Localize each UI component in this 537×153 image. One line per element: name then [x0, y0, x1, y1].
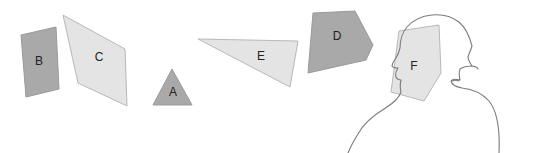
shape-d-label: D — [333, 29, 342, 43]
shape-e-label: E — [257, 49, 265, 63]
shape-b-label: B — [35, 54, 43, 68]
shape-c-label: C — [95, 50, 104, 64]
shape-comparison-scene: B C A E D F — [0, 0, 537, 153]
shape-a-label: A — [169, 85, 177, 99]
shape-f-label: F — [410, 59, 417, 73]
scene-canvas: B C A E D F — [0, 0, 537, 153]
shape-b: B — [21, 27, 59, 97]
